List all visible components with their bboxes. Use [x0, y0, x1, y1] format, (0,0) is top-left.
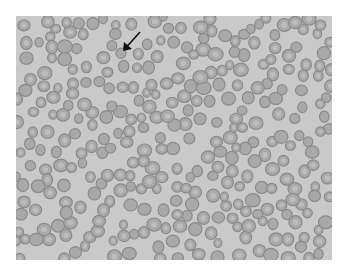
micrograph-frame: [16, 16, 332, 260]
blood-cells-field: [16, 16, 332, 260]
